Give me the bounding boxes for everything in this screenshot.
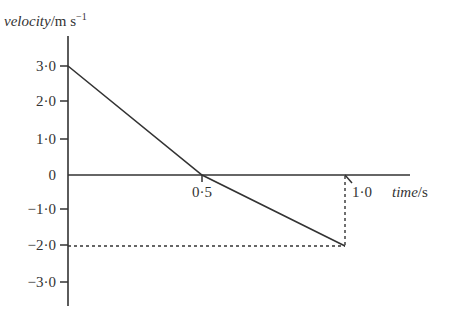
svg-text:−3·0: −3·0 [28, 274, 56, 290]
x-tick-label-0-5: 0·5 [192, 184, 212, 200]
svg-text:−1·0: −1·0 [28, 201, 56, 217]
y-axis-label: velocity/m s−1 [4, 11, 87, 29]
svg-text:3·0: 3·0 [36, 58, 56, 74]
svg-text:−2·0: −2·0 [28, 237, 56, 253]
svg-text:2·0: 2·0 [36, 93, 56, 109]
velocity-line [68, 66, 345, 246]
y-tick-labels: 3·0 2·0 1·0 0 −1·0 −2·0 −3·0 [28, 58, 56, 290]
svg-text:1·0: 1·0 [36, 131, 56, 147]
x-tick-1-0 [345, 175, 352, 183]
y-ticks [60, 66, 68, 282]
svg-text:0: 0 [49, 167, 57, 183]
x-axis-label: time/s [392, 184, 428, 200]
x-tick-label-1-0: 1·0 [352, 184, 372, 200]
velocity-time-chart: velocity/m s−1 3·0 2·0 1·0 0 −1·0 −2·0 −… [0, 0, 467, 325]
